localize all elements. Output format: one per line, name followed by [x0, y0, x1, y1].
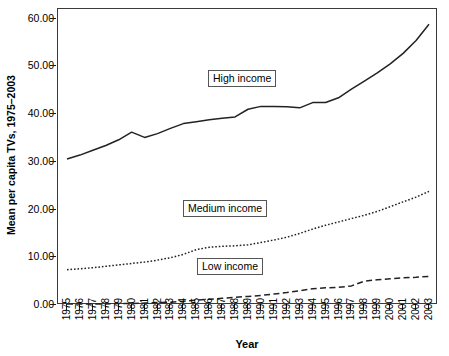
y-axis-tick-label: 10.00	[16, 250, 54, 262]
y-axis-tick-label: 50.00	[16, 59, 54, 71]
x-axis-tick-label: 2000	[384, 298, 395, 332]
x-axis-tick-label: 1976	[74, 298, 85, 332]
x-axis-tick-label: 1975	[61, 298, 72, 332]
y-axis-tick-mark	[50, 209, 56, 210]
x-axis-tick-label: 1988	[229, 298, 240, 332]
y-axis-tick-label: 60.00	[16, 12, 54, 24]
y-axis-tick-label: 0.00	[16, 298, 54, 310]
x-axis-tick-label: 2003	[423, 298, 434, 332]
x-axis-tick-label: 1991	[268, 298, 279, 332]
x-axis-tick-label: 1980	[126, 298, 137, 332]
series-line-high-income	[67, 24, 429, 159]
x-axis-tick-label: 1987	[216, 298, 227, 332]
x-axis-tick-label: 1999	[371, 298, 382, 332]
x-axis-tick-label: 1994	[307, 298, 318, 332]
chart-container: Mean per capita TVs, 1975–2003 60.0050.0…	[0, 0, 449, 356]
y-axis-tick-label: 20.00	[16, 203, 54, 215]
y-axis-tick-label: 30.00	[16, 155, 54, 167]
y-axis-tick-labels: 60.0050.0040.0030.0020.0010.000.00	[14, 0, 54, 356]
y-axis-tick-mark	[50, 304, 56, 305]
x-axis-tick-label: 1997	[345, 298, 356, 332]
x-axis-tick-label: 1995	[320, 298, 331, 332]
x-axis-tick-label: 1989	[242, 298, 253, 332]
y-axis-tick-mark	[50, 113, 56, 114]
x-axis-tick-label: 1986	[203, 298, 214, 332]
x-axis-tick-label: 1984	[177, 298, 188, 332]
x-axis-tick-label: 1977	[87, 298, 98, 332]
y-axis-tick-mark	[50, 65, 56, 66]
x-axis-tick-label: 1992	[281, 298, 292, 332]
series-label-high-income: High income	[208, 70, 276, 87]
y-axis-tick-mark	[50, 256, 56, 257]
series-label-low-income: Low income	[197, 258, 263, 275]
y-axis-tick-mark	[50, 161, 56, 162]
x-axis-tick-label: 1996	[333, 298, 344, 332]
x-axis-tick-label: 1982	[152, 298, 163, 332]
x-axis-tick-label: 2002	[410, 298, 421, 332]
y-axis-tick-label: 40.00	[16, 107, 54, 119]
x-axis-tick-label: 1993	[294, 298, 305, 332]
x-axis-tick-label: 1998	[358, 298, 369, 332]
x-axis-tick-label: 2001	[397, 298, 408, 332]
x-axis-tick-label: 1978	[100, 298, 111, 332]
x-axis-tick-label: 1985	[190, 298, 201, 332]
x-axis-title: Year	[57, 338, 437, 350]
series-label-medium-income: Medium income	[183, 200, 267, 217]
y-axis-tick-mark	[50, 18, 56, 19]
x-axis-tick-label: 1981	[139, 298, 150, 332]
x-axis-tick-label: 1990	[255, 298, 266, 332]
x-axis-tick-label: 1983	[164, 298, 175, 332]
x-axis-tick-label: 1979	[113, 298, 124, 332]
